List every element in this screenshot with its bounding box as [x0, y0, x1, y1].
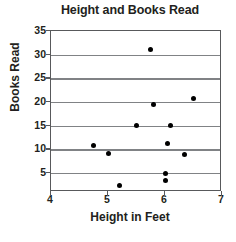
data-point	[117, 183, 122, 188]
y-tick-label-5: 5	[20, 167, 46, 177]
gridline-30	[51, 55, 220, 56]
x-tick-mark-4	[50, 191, 51, 196]
gridline-20	[51, 102, 220, 103]
data-point	[163, 171, 168, 176]
x-tick-mark-5	[107, 191, 108, 196]
data-point	[165, 141, 170, 146]
data-point	[168, 123, 173, 128]
data-point	[191, 96, 196, 101]
y-tick-label-20: 20	[20, 96, 46, 106]
x-axis-title: Height in Feet	[30, 210, 230, 224]
gridline-5	[51, 173, 220, 174]
data-point	[148, 47, 153, 52]
data-point	[182, 152, 187, 157]
data-point	[151, 102, 156, 107]
y-tick-label-10: 10	[20, 143, 46, 153]
data-point	[91, 143, 96, 148]
y-tick-label-30: 30	[20, 49, 46, 59]
x-tick-mark-6	[164, 191, 165, 196]
plot-area	[50, 30, 221, 191]
chart-title: Height and Books Read	[30, 3, 230, 17]
x-tick-mark-7	[221, 191, 222, 196]
y-tick-label-25: 25	[20, 72, 46, 82]
data-point	[106, 151, 111, 156]
data-point	[163, 178, 168, 183]
data-point	[134, 123, 139, 128]
y-tick-label-15: 15	[20, 120, 46, 130]
scatter-chart: Height and Books Read Books Read 5101520…	[0, 0, 236, 242]
gridline-10	[51, 149, 220, 150]
y-tick-label-35: 35	[20, 25, 46, 35]
gridline-25	[51, 78, 220, 79]
